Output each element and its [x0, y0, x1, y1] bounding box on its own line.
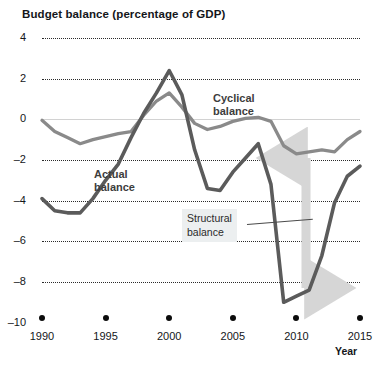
- structural-balance-label: Structural balance: [182, 209, 237, 242]
- cyclical-balance-label: Cyclical balance: [213, 92, 255, 118]
- actual-balance-line: [42, 71, 360, 303]
- cyclical-balance-line: [42, 93, 360, 154]
- chart-figure: Budget balance (percentage of GDP) 4 2 0…: [0, 0, 392, 371]
- series-layer: [0, 0, 392, 371]
- structural-label-line1: Structural: [187, 212, 232, 224]
- cyclical-label-line1: Cyclical: [213, 92, 255, 104]
- actual-label-line1: Actual: [94, 168, 128, 180]
- actual-label-line2: balance: [94, 181, 135, 193]
- structural-label-line2: balance: [187, 226, 224, 238]
- actual-balance-label: Actual balance: [94, 168, 135, 194]
- cyclical-label-line2: balance: [213, 105, 254, 117]
